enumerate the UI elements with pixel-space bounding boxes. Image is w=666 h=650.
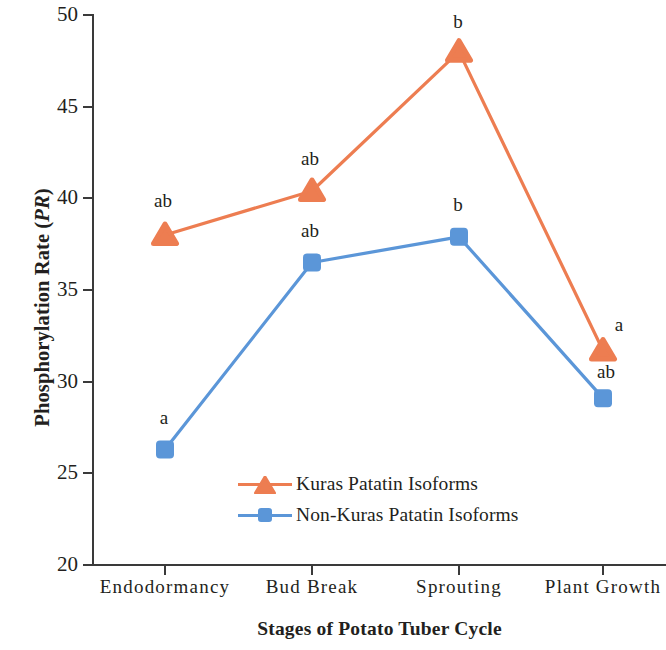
data-point-marker bbox=[594, 389, 612, 407]
chart-figure: Phosphorylation Rate (PR) 20253035404550… bbox=[0, 0, 666, 650]
point-significance-label: b bbox=[418, 195, 498, 214]
data-point-marker bbox=[303, 254, 321, 272]
data-point-marker bbox=[154, 224, 177, 244]
point-significance-label: a bbox=[124, 408, 204, 427]
point-significance-label: a bbox=[579, 315, 659, 334]
chart-legend: Kuras Patatin Isoforms Non-Kuras Patatin… bbox=[238, 468, 518, 530]
series-line bbox=[165, 52, 603, 351]
data-point-marker bbox=[448, 41, 471, 61]
series-plot bbox=[0, 0, 666, 650]
legend-marker-triangle-icon bbox=[238, 473, 292, 495]
data-point-marker bbox=[156, 441, 174, 459]
point-significance-label: ab bbox=[270, 221, 350, 240]
data-point-marker bbox=[450, 228, 468, 246]
x-axis-title: Stages of Potato Tuber Cycle bbox=[93, 618, 666, 640]
legend-item-non-kuras[interactable]: Non-Kuras Patatin Isoforms bbox=[238, 499, 518, 530]
legend-marker-square-icon bbox=[238, 504, 292, 526]
point-significance-label: ab bbox=[270, 149, 350, 168]
legend-item-kuras[interactable]: Kuras Patatin Isoforms bbox=[238, 468, 518, 499]
series-line bbox=[165, 237, 603, 450]
data-point-marker bbox=[592, 340, 615, 360]
legend-label-kuras: Kuras Patatin Isoforms bbox=[292, 473, 478, 495]
point-significance-label: b bbox=[418, 12, 498, 31]
point-significance-label: ab bbox=[566, 362, 646, 381]
point-significance-label: ab bbox=[123, 191, 203, 210]
legend-label-non-kuras: Non-Kuras Patatin Isoforms bbox=[292, 504, 518, 526]
